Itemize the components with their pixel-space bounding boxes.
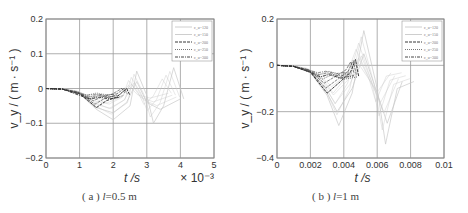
x-tick-label: 0 bbox=[43, 160, 48, 170]
y-tick-label: −0.2 bbox=[25, 153, 43, 163]
legend-label: c_u=300 bbox=[424, 55, 438, 60]
y-tick-label: 0 bbox=[269, 60, 274, 70]
x-axis-multiplier: × 10⁻³ bbox=[180, 171, 214, 185]
x-tick-label: 0.004 bbox=[333, 160, 356, 170]
y-tick-label: 0.1 bbox=[30, 49, 43, 59]
caption-b: ( b ) l=1 m bbox=[312, 190, 359, 202]
legend-label: c_u=200 bbox=[194, 40, 208, 45]
chart-b-plot: 00.0020.0040.0060.0080.010.20−0.2−0.4c_u… bbox=[234, 0, 468, 213]
legend-label: c_u=120 bbox=[194, 25, 208, 30]
caption-a-prefix: ( a ) bbox=[82, 190, 100, 202]
x-axis-label: t /s bbox=[354, 171, 370, 185]
legend-label: c_u=200 bbox=[424, 40, 438, 45]
legend-label: c_u=250 bbox=[424, 47, 438, 52]
x-tick-label: 5 bbox=[211, 160, 216, 170]
series-c_u-120 bbox=[277, 31, 414, 145]
legend-b: c_u=120c_u=150c_u=200c_u=250c_u=300 bbox=[402, 21, 442, 61]
x-tick-label: 0.008 bbox=[399, 160, 422, 170]
chart-a-plot: 0123450.20.10−0.1−0.2c_u=120c_u=150c_u=2… bbox=[0, 0, 234, 213]
legend-a: c_u=120c_u=150c_u=200c_u=250c_u=300 bbox=[172, 21, 212, 61]
y-axis-label: v_y / ( m · s⁻¹ ) bbox=[7, 49, 21, 129]
series-c_u-150 bbox=[277, 54, 402, 124]
x-tick-label: 0 bbox=[274, 160, 279, 170]
legend-label: c_u=120 bbox=[424, 25, 438, 30]
y-tick-label: −0.2 bbox=[256, 107, 274, 117]
x-axis-label: t /s bbox=[124, 171, 140, 185]
y-tick-label: −0.1 bbox=[25, 118, 43, 128]
caption-b-prefix: ( b ) bbox=[312, 190, 330, 202]
y-tick-label: 0.2 bbox=[261, 14, 274, 24]
y-tick-label: 0.2 bbox=[30, 14, 43, 24]
chart-panel-a: 0123450.20.10−0.1−0.2c_u=120c_u=150c_u=2… bbox=[0, 0, 234, 213]
x-tick-label: 4 bbox=[178, 160, 183, 170]
chart-panel-b: 00.0020.0040.0060.0080.010.20−0.2−0.4c_u… bbox=[234, 0, 468, 213]
x-tick-label: 2 bbox=[111, 160, 116, 170]
caption-b-value: =1 m bbox=[336, 190, 359, 202]
x-tick-label: 3 bbox=[144, 160, 149, 170]
x-tick-label: 0.01 bbox=[435, 160, 453, 170]
caption-a: ( a ) l=0.5 m bbox=[82, 190, 137, 202]
x-tick-label: 0.006 bbox=[366, 160, 389, 170]
legend-label: c_u=250 bbox=[194, 47, 208, 52]
x-tick-label: 0.002 bbox=[299, 160, 322, 170]
x-tick-label: 1 bbox=[77, 160, 82, 170]
y-tick-label: 0 bbox=[38, 84, 43, 94]
legend-label: c_u=150 bbox=[424, 32, 438, 37]
caption-a-value: =0.5 m bbox=[106, 190, 137, 202]
y-axis-label: v_y / ( m · s⁻¹ ) bbox=[238, 49, 252, 129]
legend-label: c_u=150 bbox=[194, 32, 208, 37]
y-tick-label: −0.4 bbox=[256, 153, 274, 163]
legend-label: c_u=300 bbox=[194, 55, 208, 60]
